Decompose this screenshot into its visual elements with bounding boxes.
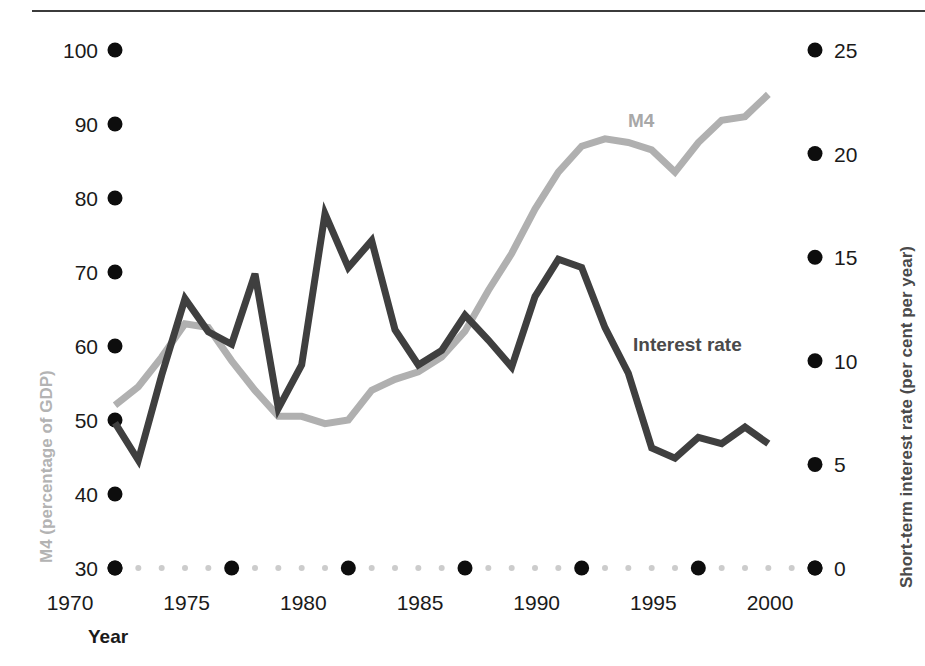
x-axis-minor-tick-dot [532, 565, 538, 571]
right-axis-tick-label: 15 [834, 247, 880, 268]
x-axis-major-tick-dot [224, 561, 239, 576]
x-axis-minor-tick-dot [555, 565, 561, 571]
x-axis-major-tick-dot [574, 561, 589, 576]
x-axis-tick-label: 1975 [142, 592, 232, 613]
right-axis-tick-label: 10 [834, 350, 880, 371]
x-axis-tick-label: 1995 [608, 592, 698, 613]
right-axis-tick-label: 0 [834, 558, 880, 579]
x-axis-minor-tick-dot [719, 565, 725, 571]
x-axis-minor-tick-dot [322, 565, 328, 571]
x-axis-minor-tick-dot [415, 565, 421, 571]
x-axis-tick-label: 1985 [375, 592, 465, 613]
left-axis-tick-dot [108, 339, 123, 354]
right-axis-tick-label: 20 [834, 143, 880, 164]
left-axis-tick-label: 90 [58, 114, 98, 135]
left-axis-tick-dot [108, 265, 123, 280]
right-axis-title: Short-term interest rate (per cent per y… [898, 246, 915, 588]
x-axis-tick-label: 1980 [258, 592, 348, 613]
series-line-m4 [115, 94, 768, 423]
series-label-interest-rate: Interest rate [633, 335, 742, 354]
left-axis-tick-label: 30 [58, 558, 98, 579]
x-axis-tick-label: 2000 [725, 592, 815, 613]
right-axis-tick-dot [808, 353, 823, 368]
x-axis-minor-tick-dot [765, 565, 771, 571]
x-axis-major-tick-dot [458, 561, 473, 576]
series-label-m4: M4 [628, 111, 654, 130]
right-axis-tick-dot [808, 250, 823, 265]
x-axis-minor-tick-dot [299, 565, 305, 571]
right-axis-tick-dot [808, 457, 823, 472]
left-axis-tick-dot [108, 487, 123, 502]
x-axis-minor-tick-dot [182, 565, 188, 571]
right-axis-tick-label: 25 [834, 40, 880, 61]
x-axis-minor-tick-dot [625, 565, 631, 571]
x-axis-tick-label: 1990 [492, 592, 582, 613]
left-axis-tick-label: 60 [58, 336, 98, 357]
right-axis-tick-dot [808, 43, 823, 58]
x-axis-minor-tick-dot [159, 565, 165, 571]
x-axis-major-tick-dot [808, 561, 823, 576]
left-axis-tick-label: 100 [58, 40, 98, 61]
left-axis-tick-dot [108, 191, 123, 206]
left-axis-tick-label: 70 [58, 262, 98, 283]
x-axis-minor-tick-dot [789, 565, 795, 571]
x-axis-minor-tick-dot [509, 565, 515, 571]
x-axis-minor-tick-dot [205, 565, 211, 571]
x-axis-minor-tick-dot [252, 565, 258, 571]
x-axis-minor-tick-dot [742, 565, 748, 571]
x-axis-minor-tick-dot [485, 565, 491, 571]
x-axis-major-tick-dot [108, 561, 123, 576]
left-axis-tick-label: 50 [58, 410, 98, 431]
x-axis-minor-tick-dot [392, 565, 398, 571]
x-axis-minor-tick-dot [602, 565, 608, 571]
x-axis-minor-tick-dot [439, 565, 445, 571]
x-axis-major-tick-dot [341, 561, 356, 576]
left-axis-title: M4 (percentage of GDP) [38, 370, 55, 563]
x-axis-minor-tick-dot [135, 565, 141, 571]
x-axis-minor-tick-dot [275, 565, 281, 571]
x-axis-minor-tick-dot [369, 565, 375, 571]
chart-figure: 1009080706050403025201510501970197519801… [0, 0, 925, 666]
chart-plot-area [0, 0, 925, 666]
left-axis-tick-label: 40 [58, 484, 98, 505]
x-axis-tick-label: 1970 [25, 592, 115, 613]
left-axis-tick-dot [108, 117, 123, 132]
x-axis-title: Year [88, 627, 128, 646]
left-axis-tick-dot [108, 43, 123, 58]
left-axis-tick-label: 80 [58, 188, 98, 209]
right-axis-tick-dot [808, 146, 823, 161]
x-axis-major-tick-dot [691, 561, 706, 576]
x-axis-minor-tick-dot [672, 565, 678, 571]
x-axis-minor-tick-dot [649, 565, 655, 571]
right-axis-tick-label: 5 [834, 454, 880, 475]
